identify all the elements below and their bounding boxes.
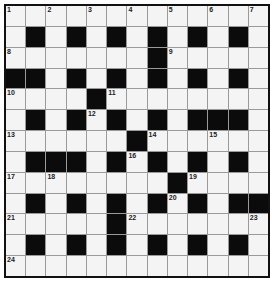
answer-cell[interactable]: 6 [208, 6, 227, 26]
answer-cell[interactable] [148, 6, 167, 26]
answer-cell[interactable]: 2 [46, 6, 65, 26]
answer-cell[interactable] [208, 214, 227, 234]
answer-cell[interactable] [168, 152, 187, 172]
answer-cell[interactable] [168, 131, 187, 151]
answer-cell[interactable]: 17 [6, 173, 25, 193]
answer-cell[interactable] [208, 256, 227, 276]
answer-cell[interactable]: 11 [107, 89, 126, 109]
answer-cell[interactable] [148, 89, 167, 109]
answer-cell[interactable]: 10 [6, 89, 25, 109]
answer-cell[interactable] [168, 235, 187, 255]
answer-cell[interactable] [229, 256, 248, 276]
answer-cell[interactable] [67, 48, 86, 68]
answer-cell[interactable]: 20 [168, 194, 187, 214]
answer-cell[interactable] [249, 69, 268, 89]
answer-cell[interactable] [46, 48, 65, 68]
answer-cell[interactable] [168, 110, 187, 130]
answer-cell[interactable] [127, 256, 146, 276]
answer-cell[interactable] [107, 131, 126, 151]
answer-cell[interactable] [67, 214, 86, 234]
answer-cell[interactable]: 8 [6, 48, 25, 68]
answer-cell[interactable] [46, 69, 65, 89]
answer-cell[interactable] [87, 69, 106, 89]
answer-cell[interactable] [87, 256, 106, 276]
answer-cell[interactable] [229, 173, 248, 193]
answer-cell[interactable] [127, 69, 146, 89]
answer-cell[interactable] [127, 235, 146, 255]
answer-cell[interactable] [46, 214, 65, 234]
answer-cell[interactable] [6, 110, 25, 130]
answer-cell[interactable] [208, 235, 227, 255]
answer-cell[interactable] [26, 214, 45, 234]
answer-cell[interactable] [188, 131, 207, 151]
answer-cell[interactable] [87, 48, 106, 68]
answer-cell[interactable] [107, 256, 126, 276]
answer-cell[interactable] [148, 256, 167, 276]
answer-cell[interactable] [87, 235, 106, 255]
answer-cell[interactable] [26, 6, 45, 26]
answer-cell[interactable] [26, 173, 45, 193]
answer-cell[interactable] [107, 173, 126, 193]
answer-cell[interactable] [67, 173, 86, 193]
answer-cell[interactable]: 4 [127, 6, 146, 26]
answer-cell[interactable] [249, 27, 268, 47]
answer-cell[interactable] [127, 48, 146, 68]
answer-cell[interactable] [67, 256, 86, 276]
answer-cell[interactable] [87, 173, 106, 193]
answer-cell[interactable] [87, 194, 106, 214]
answer-cell[interactable] [26, 89, 45, 109]
answer-cell[interactable]: 24 [6, 256, 25, 276]
answer-cell[interactable]: 7 [249, 6, 268, 26]
answer-cell[interactable] [168, 69, 187, 89]
answer-cell[interactable]: 14 [148, 131, 167, 151]
answer-cell[interactable] [168, 89, 187, 109]
answer-cell[interactable] [249, 152, 268, 172]
answer-cell[interactable] [87, 214, 106, 234]
answer-cell[interactable] [67, 131, 86, 151]
answer-cell[interactable] [249, 110, 268, 130]
answer-cell[interactable]: 16 [127, 152, 146, 172]
answer-cell[interactable]: 5 [168, 6, 187, 26]
answer-cell[interactable] [87, 152, 106, 172]
answer-cell[interactable] [46, 110, 65, 130]
answer-cell[interactable] [208, 48, 227, 68]
answer-cell[interactable] [46, 256, 65, 276]
answer-cell[interactable] [127, 89, 146, 109]
answer-cell[interactable] [249, 48, 268, 68]
answer-cell[interactable] [46, 89, 65, 109]
answer-cell[interactable] [188, 214, 207, 234]
answer-cell[interactable] [6, 194, 25, 214]
answer-cell[interactable] [87, 27, 106, 47]
answer-cell[interactable] [229, 6, 248, 26]
answer-cell[interactable] [127, 173, 146, 193]
answer-cell[interactable] [107, 6, 126, 26]
answer-cell[interactable] [208, 173, 227, 193]
answer-cell[interactable] [46, 235, 65, 255]
answer-cell[interactable] [127, 194, 146, 214]
answer-cell[interactable] [6, 235, 25, 255]
answer-cell[interactable] [188, 6, 207, 26]
answer-cell[interactable] [26, 256, 45, 276]
answer-cell[interactable] [208, 152, 227, 172]
answer-cell[interactable] [249, 131, 268, 151]
answer-cell[interactable] [6, 152, 25, 172]
answer-cell[interactable]: 12 [87, 110, 106, 130]
answer-cell[interactable] [67, 6, 86, 26]
answer-cell[interactable] [188, 89, 207, 109]
answer-cell[interactable] [168, 256, 187, 276]
answer-cell[interactable] [229, 89, 248, 109]
answer-cell[interactable] [46, 27, 65, 47]
answer-cell[interactable] [127, 110, 146, 130]
answer-cell[interactable] [229, 214, 248, 234]
answer-cell[interactable]: 18 [46, 173, 65, 193]
answer-cell[interactable] [107, 48, 126, 68]
answer-cell[interactable] [208, 89, 227, 109]
answer-cell[interactable]: 9 [168, 48, 187, 68]
answer-cell[interactable] [208, 69, 227, 89]
answer-cell[interactable]: 19 [188, 173, 207, 193]
answer-cell[interactable] [249, 89, 268, 109]
answer-cell[interactable] [208, 194, 227, 214]
answer-cell[interactable] [168, 27, 187, 47]
answer-cell[interactable] [229, 48, 248, 68]
answer-cell[interactable] [249, 235, 268, 255]
